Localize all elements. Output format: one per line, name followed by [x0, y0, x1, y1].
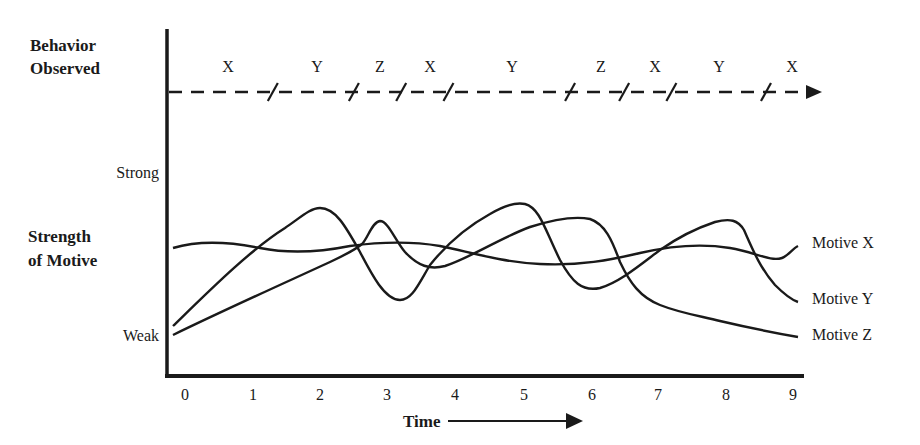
behavior-letter: X	[786, 58, 798, 75]
behavior-boundary-slash	[666, 83, 676, 101]
timeline-arrowhead-icon	[806, 85, 822, 99]
motive-x-label: Motive X	[812, 234, 874, 251]
motive-y-curve	[173, 203, 798, 326]
x-tick-label: 8	[722, 386, 730, 403]
strong-label: Strong	[116, 164, 159, 182]
behavior-letter: Y	[713, 58, 725, 75]
motive-behavior-diagram: Behavior Observed Strong Strength of Mot…	[0, 0, 920, 445]
x-tick-label: 1	[249, 386, 257, 403]
motive-y-label: Motive Y	[812, 290, 874, 307]
x-tick-label: 7	[654, 386, 662, 403]
motive-x-curve	[173, 243, 798, 265]
x-tick-label: 5	[520, 386, 528, 403]
weak-label: Weak	[123, 327, 159, 344]
time-arrow-icon	[566, 413, 583, 429]
behavior-letters: X Y Z X Y Z X Y X	[222, 58, 798, 75]
x-tick-label: 4	[451, 386, 459, 403]
behavior-letter: X	[222, 58, 234, 75]
behavior-label-line2: Observed	[30, 59, 100, 78]
strength-label-line2: of Motive	[28, 251, 98, 270]
behavior-boundaries	[268, 83, 771, 101]
time-label: Time	[403, 412, 441, 431]
behavior-letter: Y	[311, 58, 323, 75]
x-tick-label: 3	[383, 386, 391, 403]
motive-z-label: Motive Z	[812, 326, 872, 343]
behavior-label-line1: Behavior	[30, 36, 97, 55]
x-tick-label: 0	[181, 386, 189, 403]
x-tick-label: 9	[789, 386, 797, 403]
motive-z-curve	[173, 218, 798, 337]
x-tick-label: 2	[316, 386, 324, 403]
x-tick-label: 6	[588, 386, 596, 403]
behavior-letter: Y	[506, 58, 518, 75]
x-tick-labels: 0 1 2 3 4 5 6 7 8 9	[181, 386, 797, 403]
behavior-letter: Z	[596, 58, 606, 75]
behavior-letter: Z	[375, 58, 385, 75]
strength-label-line1: Strength	[28, 227, 92, 246]
behavior-letter: X	[649, 58, 661, 75]
behavior-letter: X	[424, 58, 436, 75]
